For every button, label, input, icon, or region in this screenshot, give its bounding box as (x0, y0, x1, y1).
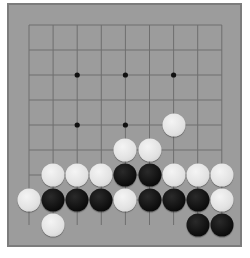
white-stone (114, 189, 137, 212)
white-stone (90, 164, 113, 187)
black-stone (42, 189, 65, 212)
white-stone (162, 164, 185, 187)
white-stone (162, 114, 185, 137)
black-stone (114, 164, 137, 187)
white-stone (42, 164, 65, 187)
black-stone (162, 189, 185, 212)
white-stone (18, 189, 41, 212)
white-stone (210, 164, 233, 187)
black-stone (66, 189, 89, 212)
black-stone (210, 214, 233, 237)
white-stone (138, 139, 161, 162)
black-stone (90, 189, 113, 212)
black-stone (138, 189, 161, 212)
white-stone (42, 214, 65, 237)
black-stone (138, 164, 161, 187)
white-stone (186, 164, 209, 187)
white-stone (210, 189, 233, 212)
white-stone (66, 164, 89, 187)
black-stone (186, 189, 209, 212)
white-stone (114, 139, 137, 162)
black-stone (186, 214, 209, 237)
